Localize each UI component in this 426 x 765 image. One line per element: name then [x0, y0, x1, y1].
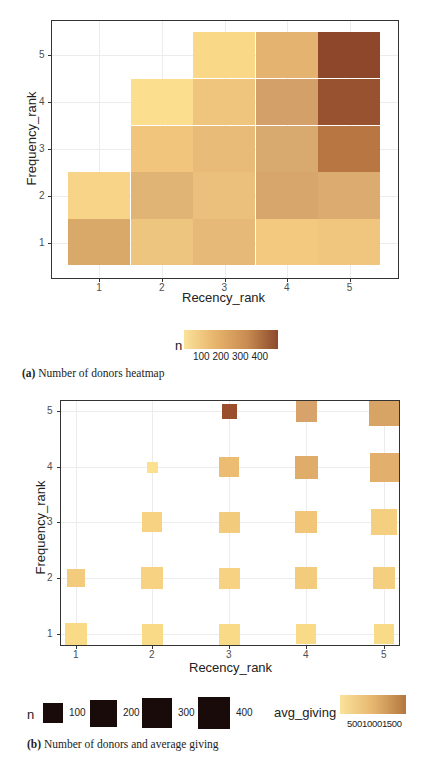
chart-a-y-tick-mark	[48, 196, 51, 197]
chart-b-y-axis-title: Frequency_rank	[33, 485, 48, 575]
chart-a-y-axis-title: Frequency_rank	[24, 96, 39, 186]
chart-b-y-tick-label: 1	[47, 628, 53, 639]
heatmap-tile	[318, 32, 380, 78]
sized-square-point	[141, 567, 163, 589]
size-legend-key	[43, 703, 63, 723]
chart-a-y-tick-label: 3	[39, 143, 45, 154]
size-legend-label: 300	[178, 707, 195, 718]
chart-b-caption: (b) Number of donors and average giving	[27, 738, 219, 750]
sized-square-point	[370, 453, 399, 482]
chart-b-y-tick-mark	[57, 522, 60, 523]
chart-a-y-tick-label: 4	[39, 96, 45, 107]
size-legend-key	[198, 697, 230, 729]
chart-b-y-tick-mark	[57, 411, 60, 412]
chart-a-y-tick-mark	[48, 102, 51, 103]
size-legend-key	[90, 700, 117, 727]
chart-a-y-tick-mark	[48, 55, 51, 56]
sized-square-point	[219, 568, 240, 589]
chart-b-x-tick-label: 1	[73, 649, 79, 660]
chart-b-colorbar	[340, 695, 406, 714]
sized-square-point	[369, 401, 399, 426]
chart-a-legend-ticks: 100 200 300 400	[193, 351, 283, 362]
chart-b-size-legend-title: n	[27, 707, 34, 722]
chart-b-gridline-v	[76, 401, 77, 645]
heatmap-tile	[256, 32, 318, 78]
heatmap-tile	[68, 219, 130, 265]
chart-b-y-tick-mark	[57, 634, 60, 635]
size-legend-label: 400	[236, 707, 253, 718]
heatmap-tile	[193, 219, 255, 265]
chart-a-x-tick-label: 5	[347, 282, 353, 293]
heatmap-tile	[193, 32, 255, 78]
heatmap-tile	[318, 126, 380, 172]
sized-square-point	[295, 511, 317, 533]
size-legend-label: 200	[123, 707, 140, 718]
sized-square-point	[296, 624, 316, 644]
heatmap-tile	[318, 172, 380, 218]
chart-a-y-tick-label: 2	[39, 190, 45, 201]
chart-b-x-axis-title: Recency_rank	[189, 660, 272, 675]
chart-a-x-tick-label: 3	[222, 282, 228, 293]
chart-b-y-tick-mark	[57, 467, 60, 468]
sized-square-point	[219, 512, 240, 533]
heatmap-tile	[256, 79, 318, 125]
heatmap-tile	[256, 126, 318, 172]
heatmap-tile	[131, 172, 193, 218]
sized-square-point	[296, 401, 317, 422]
sized-square-point	[371, 509, 397, 535]
chart-a-y-tick-mark	[48, 243, 51, 244]
chart-a-y-tick-label: 5	[39, 49, 45, 60]
chart-a-caption: (a) Number of donors heatmap	[22, 367, 164, 379]
chart-b-x-tick-label: 3	[226, 649, 232, 660]
chart-a-x-tick-label: 1	[96, 282, 102, 293]
chart-a-caption-text: Number of donors heatmap	[38, 367, 164, 379]
sized-square-point	[219, 457, 239, 477]
sized-square-point	[373, 567, 395, 589]
chart-b-y-tick-mark	[57, 578, 60, 579]
heatmap-tile	[193, 79, 255, 125]
sized-square-point	[67, 569, 85, 587]
chart-b-caption-label: (b)	[27, 738, 41, 750]
chart-b-x-tick-label: 2	[149, 649, 155, 660]
heatmap-tile	[131, 79, 193, 125]
sized-square-point	[295, 456, 318, 479]
sized-square-point	[147, 462, 158, 473]
chart-a-legend-title: n	[175, 338, 182, 353]
heatmap-tile	[131, 219, 193, 265]
sized-square-point	[222, 404, 237, 419]
chart-b-y-tick-label: 5	[47, 405, 53, 416]
chart-a-x-tick-label: 2	[159, 282, 165, 293]
chart-a-y-tick-label: 1	[39, 237, 45, 248]
chart-b-caption-text: Number of donors and average giving	[44, 738, 219, 750]
size-legend-label: 100	[69, 707, 86, 718]
chart-b-x-tick-label: 4	[303, 649, 309, 660]
chart-b-y-tick-label: 4	[47, 461, 53, 472]
chart-b-y-tick-label: 2	[47, 572, 53, 583]
heatmap-tile	[318, 219, 380, 265]
heatmap-tile	[256, 172, 318, 218]
heatmap-tile	[256, 219, 318, 265]
chart-b-x-tick-label: 5	[381, 649, 387, 660]
sized-square-point	[65, 623, 87, 645]
sized-square-point	[374, 624, 394, 644]
chart-b-color-legend-title: avg_giving	[274, 705, 336, 720]
chart-a-caption-label: (a)	[22, 367, 35, 379]
sized-square-point	[295, 567, 317, 589]
heatmap-tile	[193, 172, 255, 218]
heatmap-tile	[193, 126, 255, 172]
chart-a-y-tick-mark	[48, 149, 51, 150]
chart-b-colorbar-ticks: 50010001500	[347, 718, 402, 729]
chart-a-colorbar	[184, 330, 278, 349]
heatmap-tile	[68, 172, 130, 218]
sized-square-point	[142, 624, 163, 645]
heatmap-tile	[131, 126, 193, 172]
sized-square-point	[219, 624, 240, 645]
chart-b-y-tick-label: 3	[47, 516, 53, 527]
sized-square-point	[142, 512, 162, 532]
size-legend-key	[142, 698, 172, 728]
heatmap-tile	[318, 79, 380, 125]
chart-a-x-tick-label: 4	[284, 282, 290, 293]
